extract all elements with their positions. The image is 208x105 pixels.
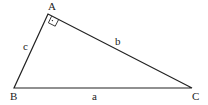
vertex-label-a: A: [48, 0, 56, 12]
triangle-abc: [14, 14, 192, 88]
side-label-c: c: [23, 40, 28, 52]
side-label-a: a: [92, 90, 97, 102]
vertex-label-b: B: [10, 90, 17, 102]
vertex-label-c: C: [192, 90, 199, 102]
triangle-diagram: A B C c b a: [0, 0, 208, 105]
right-angle-marker: [48, 16, 58, 26]
side-label-b: b: [115, 35, 121, 47]
right-angle-dot: [52, 20, 53, 21]
